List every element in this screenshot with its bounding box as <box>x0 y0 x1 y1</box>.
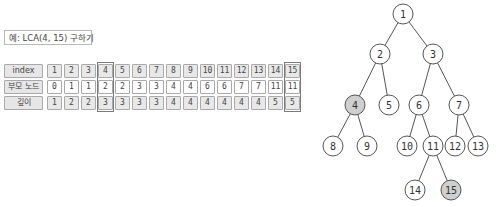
svg-text:13: 13 <box>472 141 484 152</box>
tree-node-12: 12 <box>445 136 465 156</box>
svg-text:9: 9 <box>364 141 370 152</box>
tree-node-3: 3 <box>423 44 443 64</box>
tree-diagram: 123456789101112131415 <box>0 0 498 207</box>
svg-text:15: 15 <box>445 185 457 196</box>
tree-node-8: 8 <box>323 136 343 156</box>
tree-node-6: 6 <box>409 95 429 115</box>
svg-text:14: 14 <box>409 185 421 196</box>
svg-text:4: 4 <box>352 100 358 111</box>
tree-node-9: 9 <box>357 136 377 156</box>
svg-text:8: 8 <box>330 141 336 152</box>
tree-node-2: 2 <box>370 44 390 64</box>
tree-node-4: 4 <box>345 95 365 115</box>
svg-text:7: 7 <box>456 100 462 111</box>
svg-text:11: 11 <box>427 141 439 152</box>
tree-node-15: 15 <box>441 180 461 200</box>
svg-text:12: 12 <box>449 141 461 152</box>
tree-node-1: 1 <box>393 4 413 24</box>
tree-node-11: 11 <box>423 136 443 156</box>
tree-node-5: 5 <box>379 95 399 115</box>
tree-node-10: 10 <box>397 136 417 156</box>
tree-node-14: 14 <box>405 180 425 200</box>
svg-text:1: 1 <box>400 9 406 20</box>
svg-text:3: 3 <box>430 49 436 60</box>
svg-text:5: 5 <box>386 100 392 111</box>
svg-text:2: 2 <box>377 49 383 60</box>
tree-node-13: 13 <box>468 136 488 156</box>
tree-node-7: 7 <box>449 95 469 115</box>
svg-text:10: 10 <box>401 141 413 152</box>
svg-text:6: 6 <box>416 100 422 111</box>
